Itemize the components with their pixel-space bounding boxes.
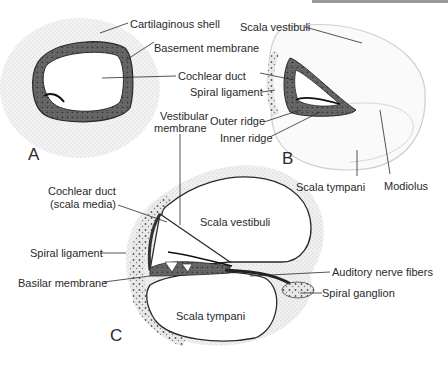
label-auditory-nerve-fibers: Auditory nerve fibers — [332, 266, 433, 278]
label-scala-vestibuli-c: Scala vestibuli — [200, 216, 270, 228]
label-scala-tympani-b: Scala tympani — [296, 181, 365, 193]
label-modiolus: Modiolus — [384, 180, 428, 192]
panel-a-drawing — [0, 18, 176, 158]
label-cochlear-duct-c-line2: (scala media) — [50, 198, 116, 210]
label-cartilaginous-shell: Cartilaginous shell — [130, 18, 220, 30]
label-cochlear-duct-c-line1: Cochlear duct — [48, 185, 116, 197]
label-inner-ridge: Inner ridge — [220, 132, 273, 144]
label-vestibular-membrane-line1: Vestibular — [160, 110, 208, 122]
panel-label-b: B — [282, 150, 293, 168]
label-scala-vestibuli-b: Scala vestibuli — [240, 21, 310, 33]
label-spiral-ligament-c: Spiral ligament — [30, 247, 103, 259]
label-basement-membrane: Basement membrane — [154, 42, 259, 54]
label-spiral-ligament-b: Spiral ligament — [190, 86, 263, 98]
label-outer-ridge: Outer ridge — [210, 115, 265, 127]
label-scala-tympani-c: Scala tympani — [176, 310, 245, 322]
label-cochlear-duct-a: Cochlear duct — [178, 70, 246, 82]
label-vestibular-membrane-line2: membrane — [154, 122, 207, 134]
label-basilar-membrane: Basilar membrane — [18, 277, 107, 289]
label-spiral-ganglion: Spiral ganglion — [322, 287, 395, 299]
panel-label-c: C — [110, 327, 122, 345]
panel-label-a: A — [28, 146, 39, 164]
